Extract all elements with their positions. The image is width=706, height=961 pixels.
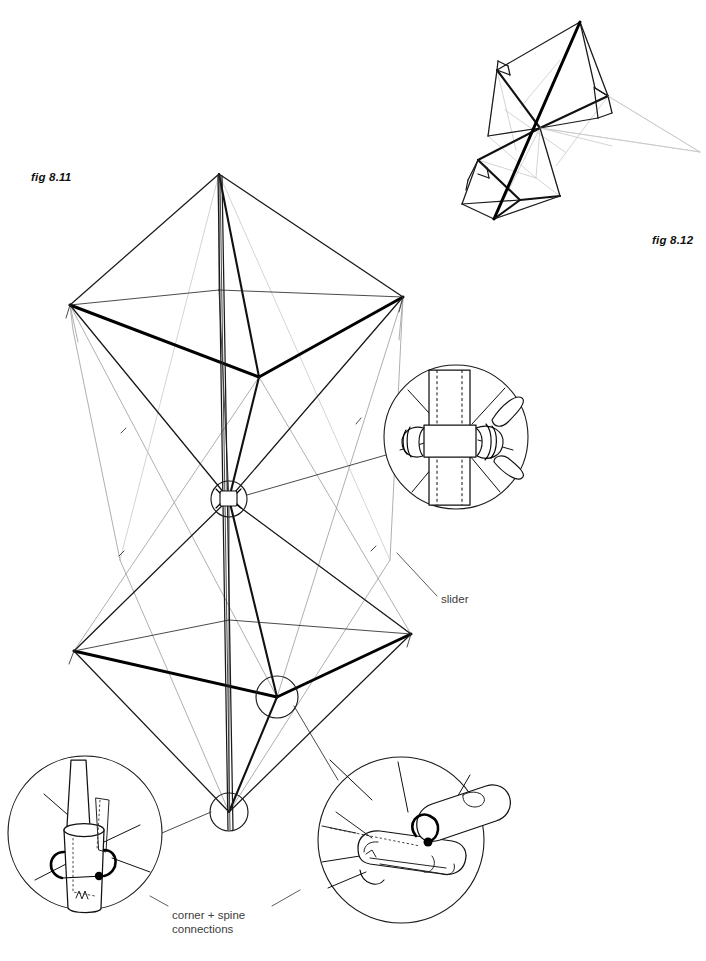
figure-label-8-12: fig 8.12 — [652, 234, 693, 246]
fig-8-12-lower-cell — [462, 128, 560, 219]
corner-spine-label-line-1: corner + spine — [172, 908, 245, 922]
slider-detail-callout — [247, 365, 528, 509]
fig-8-11-group — [66, 174, 411, 831]
corner-connector-detail-callout — [294, 706, 510, 923]
kite-diagram-svg — [0, 0, 706, 961]
corner-connector-callout-leader — [294, 706, 338, 780]
spine-socket-detail-callout — [8, 756, 211, 913]
fig-8-11-upper-cell — [66, 174, 403, 499]
slider-label-leader — [397, 553, 437, 596]
corner-label-leader-left — [150, 896, 168, 906]
slider-callout-leader — [247, 455, 386, 495]
spine-rod — [67, 760, 90, 828]
fig-8-12-upper-cell — [488, 22, 612, 136]
fig-8-12-spine — [494, 22, 580, 219]
diagram-sheet: fig 8.11 fig 8.12 slider corner + spine … — [0, 0, 706, 961]
fig-8-12-flying-line — [540, 128, 700, 152]
fig-8-11-rigging — [70, 174, 411, 812]
figure-label-8-11: fig 8.11 — [31, 171, 71, 183]
corner-spine-label-line-2: connections — [172, 922, 245, 936]
slider-collar — [424, 425, 476, 457]
slider-annotation-label: slider — [441, 592, 468, 606]
spine-socket-callout-leader — [162, 812, 211, 833]
fig-8-12-group — [462, 22, 700, 219]
corner-spine-annotation-label: corner + spine connections — [172, 908, 245, 936]
corner-label-leader-right — [272, 890, 300, 906]
fig-8-12-rigging — [478, 22, 700, 219]
